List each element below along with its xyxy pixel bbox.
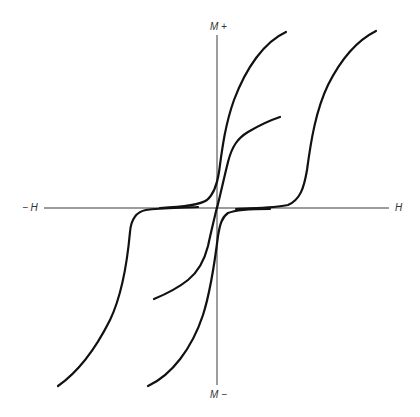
hysteresis-diagram: − H H M + M − <box>0 0 420 417</box>
h-negative-label: − H <box>22 202 38 213</box>
m-positive-label: M + <box>210 21 227 32</box>
diagram-canvas <box>0 0 420 417</box>
inner-minor-loop-lower <box>154 207 217 299</box>
lower-branch-near-origin <box>148 209 270 386</box>
h-positive-label: H <box>395 202 402 213</box>
lower-branch-left-loop <box>58 207 198 386</box>
m-negative-label: M − <box>210 389 227 400</box>
